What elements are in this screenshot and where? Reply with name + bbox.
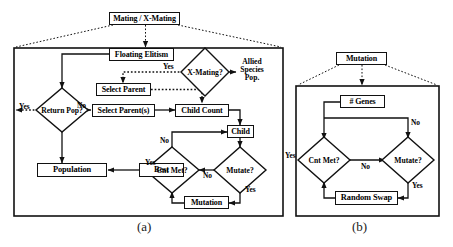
population-label: Population xyxy=(53,166,91,174)
num-genes-box[interactable]: # Genes xyxy=(340,95,385,108)
num-genes-label: # Genes xyxy=(349,98,375,106)
edge-label-return-yes: Yes xyxy=(19,103,30,110)
mutation-title-box-b[interactable]: Mutation xyxy=(336,52,387,65)
mating-title-label: Mating / X-Mating xyxy=(113,15,176,23)
child-count-box[interactable]: Child Count xyxy=(175,104,229,117)
edge-label-return-no: No xyxy=(77,102,86,109)
allied-species-pop-label: Allied Species Pop. xyxy=(234,58,270,82)
edge-label-mutate-yes-b: Yes xyxy=(412,182,423,189)
select-parents-label: Select Parent(s) xyxy=(98,107,150,115)
select-parents-box[interactable]: Select Parent(s) xyxy=(92,104,155,117)
floating-elitism-box[interactable]: Floating Elitism xyxy=(109,48,174,61)
mutate-diamond-a xyxy=(214,147,266,193)
population-box[interactable]: Population xyxy=(37,163,107,177)
edge-label-mutate-yes-a: Yes xyxy=(245,186,256,193)
edge-label-cntmet-yes-a: Yes xyxy=(145,159,156,166)
floating-elitism-label: Floating Elitism xyxy=(115,51,168,59)
flowchart-connectors xyxy=(0,0,453,247)
edge-label-cntmet-no-a: No xyxy=(160,137,169,144)
child-count-label: Child Count xyxy=(181,107,222,115)
random-swap-box[interactable]: Random Swap xyxy=(335,191,398,205)
mating-title-box[interactable]: Mating / X-Mating xyxy=(109,12,180,25)
figure-flowchart: Mating / X-Mating Floating Elitism X-Mat… xyxy=(0,0,453,247)
edge-label-xmating-yes: Yes xyxy=(163,63,174,70)
mutate-diamond-b xyxy=(382,137,434,183)
caption-panel-a: (a) xyxy=(137,219,151,235)
best-label: Best xyxy=(154,166,169,174)
child-label: Child xyxy=(231,128,250,136)
caption-panel-b: (b) xyxy=(352,219,367,235)
child-box[interactable]: Child xyxy=(227,125,254,138)
edge-label-cntmet-no-b: No xyxy=(361,163,370,170)
select-parent-box[interactable]: Select Parent xyxy=(96,83,151,96)
edge-label-mutate-no-top-b: No xyxy=(411,119,420,126)
x-mating-diamond xyxy=(181,48,229,96)
mutation-title-label-b: Mutation xyxy=(346,55,377,63)
random-swap-label: Random Swap xyxy=(341,194,392,202)
mutation-label-a: Mutation xyxy=(191,199,222,207)
allied-line-3: Pop. xyxy=(245,73,260,82)
edge-label-mutate-no-a: No xyxy=(203,172,212,179)
return-pop-diamond xyxy=(36,88,88,132)
cnt-met-diamond-b xyxy=(298,137,350,183)
edge-label-cntmet-yes-b: Yes xyxy=(285,152,296,159)
select-parent-label: Select Parent xyxy=(102,86,146,94)
mutation-box-a[interactable]: Mutation xyxy=(184,196,229,209)
